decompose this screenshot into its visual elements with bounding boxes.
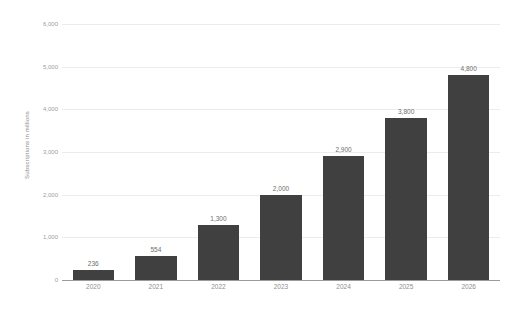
y-axis-tick-label: 4,000 bbox=[43, 106, 58, 112]
bar-group[interactable]: 4,800 bbox=[448, 24, 489, 280]
x-axis-baseline bbox=[62, 280, 500, 281]
bar-value-label: 236 bbox=[73, 260, 114, 267]
y-axis-tick-label: 1,000 bbox=[43, 234, 58, 240]
y-axis-tick-labels: 01,0002,0003,0004,0005,0006,000 bbox=[26, 24, 58, 280]
bar-group[interactable]: 1,300 bbox=[198, 24, 239, 280]
bars-layer: 2365541,3002,0002,9003,8004,800 bbox=[62, 24, 500, 280]
bar[interactable] bbox=[323, 156, 364, 280]
x-axis-tick-label: 2021 bbox=[125, 283, 188, 290]
y-axis-tick-label: 3,000 bbox=[43, 149, 58, 155]
bar[interactable] bbox=[448, 75, 489, 280]
bar[interactable] bbox=[385, 118, 426, 280]
bar[interactable] bbox=[135, 256, 176, 280]
bar-group[interactable]: 236 bbox=[73, 24, 114, 280]
y-axis-tick-label: 2,000 bbox=[43, 192, 58, 198]
bar-group[interactable]: 2,900 bbox=[323, 24, 364, 280]
x-axis-tick-label: 2026 bbox=[437, 283, 500, 290]
x-axis-tick-label: 2024 bbox=[312, 283, 375, 290]
x-axis-tick-label: 2020 bbox=[62, 283, 125, 290]
y-axis-tick-label: 0 bbox=[55, 277, 58, 283]
bar-group[interactable]: 3,800 bbox=[385, 24, 426, 280]
y-axis-tick-label: 6,000 bbox=[43, 21, 58, 27]
x-axis-tick-labels: 2020202120222023202420252026 bbox=[62, 283, 500, 297]
bar-value-label: 2,000 bbox=[260, 185, 301, 192]
bar-value-label: 554 bbox=[135, 246, 176, 253]
y-axis-tick-label: 5,000 bbox=[43, 64, 58, 70]
x-axis-tick-label: 2022 bbox=[187, 283, 250, 290]
x-axis-tick-label: 2023 bbox=[250, 283, 313, 290]
bar-value-label: 1,300 bbox=[198, 215, 239, 222]
bar[interactable] bbox=[198, 225, 239, 280]
bar-chart: Subscriptions in millions 01,0002,0003,0… bbox=[0, 0, 516, 322]
bar-group[interactable]: 2,000 bbox=[260, 24, 301, 280]
x-axis-tick-label: 2025 bbox=[375, 283, 438, 290]
bar-value-label: 3,800 bbox=[385, 108, 426, 115]
bar[interactable] bbox=[73, 270, 114, 280]
bar-group[interactable]: 554 bbox=[135, 24, 176, 280]
bar-value-label: 2,900 bbox=[323, 146, 364, 153]
bar[interactable] bbox=[260, 195, 301, 280]
bar-value-label: 4,800 bbox=[448, 65, 489, 72]
